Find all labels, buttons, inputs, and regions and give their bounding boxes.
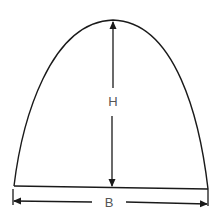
height-label: H xyxy=(106,94,119,109)
base-arrow-left xyxy=(14,201,92,202)
base-line xyxy=(14,186,208,189)
parabola-diagram xyxy=(0,0,224,221)
base-arrow-right xyxy=(126,202,207,204)
base-label: B xyxy=(103,195,116,210)
